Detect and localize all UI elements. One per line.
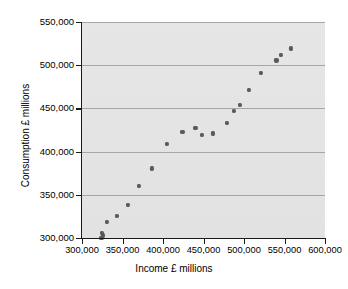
x-tick-label: 500,000: [227, 246, 261, 255]
x-tick-mark: [244, 239, 245, 244]
y-tick-label: 450,000: [40, 103, 74, 113]
plot-background: [82, 22, 325, 238]
y-tick-label: 300,000: [40, 233, 74, 243]
gridline: [82, 65, 325, 66]
x-tick-mark: [163, 239, 164, 244]
x-tick-mark: [82, 239, 83, 244]
gridline: [82, 195, 325, 196]
y-axis-line: [81, 22, 82, 239]
x-tick-label: 300,000: [65, 246, 99, 255]
x-tick-mark: [325, 239, 326, 244]
plot-area: [82, 22, 325, 238]
y-tick-label: 400,000: [40, 147, 74, 157]
x-tick-mark: [123, 239, 124, 244]
y-tick-label: 350,000: [40, 190, 74, 200]
y-tick-mark: [76, 65, 81, 66]
x-tick-label: 550,000: [268, 246, 302, 255]
x-tick-label: 450,000: [187, 246, 221, 255]
x-tick-mark: [204, 239, 205, 244]
y-axis-label: Consumption £ millions: [20, 56, 31, 216]
x-axis-label: Income £ millions: [0, 263, 348, 274]
y-tick-label: 550,000: [40, 17, 74, 27]
y-tick-label: 500,000: [40, 60, 74, 70]
gridline: [82, 22, 325, 23]
y-tick-mark: [76, 195, 81, 196]
y-tick-mark: [76, 238, 81, 239]
y-tick-mark: [76, 108, 81, 109]
x-tick-label: 600,000: [308, 246, 342, 255]
gridline: [82, 152, 325, 153]
x-tick-mark: [285, 239, 286, 244]
y-tick-mark: [76, 152, 81, 153]
x-tick-label: 400,000: [146, 246, 180, 255]
y-tick-mark: [76, 22, 81, 23]
gridline: [82, 108, 325, 109]
scatter-chart-figure: 300,000350,000400,000450,000500,000550,0…: [0, 0, 348, 289]
x-tick-label: 350,000: [106, 246, 140, 255]
